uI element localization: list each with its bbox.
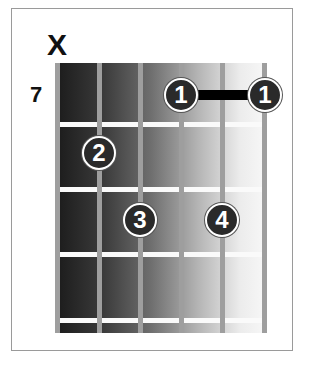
- fret-line-3: [57, 252, 265, 257]
- finger-dot-2: 2: [82, 136, 116, 170]
- muted-string-marker: X: [47, 28, 67, 62]
- finger-dot-4: 4: [205, 203, 239, 237]
- fretboard: [57, 63, 265, 333]
- string-5: [220, 63, 225, 333]
- string-1: [55, 63, 60, 333]
- fret-line-4: [57, 318, 265, 323]
- string-2: [97, 63, 102, 333]
- string-3: [138, 63, 143, 333]
- finger-dot-3: 3: [123, 203, 157, 237]
- fret-line-2: [57, 187, 265, 192]
- fret-line-1: [57, 122, 265, 127]
- finger-dot-1b: 1: [248, 78, 282, 112]
- start-fret-number: 7: [30, 82, 42, 108]
- finger-dot-1a: 1: [164, 78, 198, 112]
